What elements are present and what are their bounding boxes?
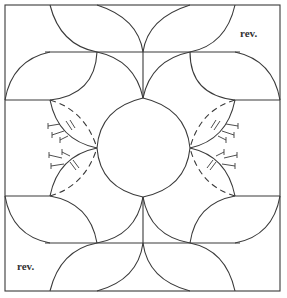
right-dashed-lower	[190, 148, 235, 196]
bottom-row-petals	[50, 243, 235, 291]
right-tack-marks	[207, 120, 238, 170]
left-tack-marks	[48, 120, 79, 170]
top-row-petals	[50, 5, 235, 52]
reverse-label-top-right: rev.	[240, 27, 257, 39]
right-arc-lower	[190, 148, 235, 196]
reverse-label-bottom-left: rev.	[17, 260, 34, 272]
quilt-block-diagram: rev. rev.	[0, 0, 287, 298]
centre-lens	[97, 98, 190, 197]
left-arc-upper	[50, 100, 97, 148]
left-arc-lower	[50, 148, 97, 196]
left-dashed-upper	[50, 100, 97, 148]
left-dashed-lower	[50, 148, 97, 196]
